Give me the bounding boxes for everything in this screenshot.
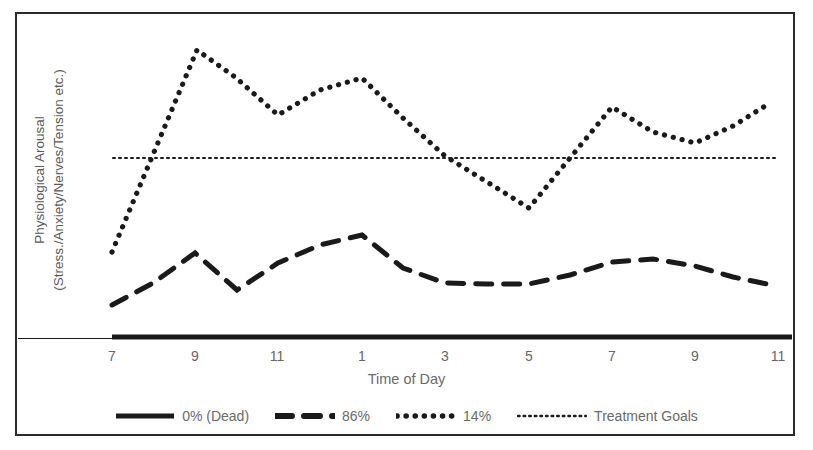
x-tick-label: 11 [270,346,285,366]
x-tick-label: 5 [525,346,533,366]
legend-item-label: 0% (Dead) [182,408,249,424]
x-tick-label: 9 [691,346,699,366]
x-tick-label: 7 [108,346,116,366]
fine-dotted-line-swatch [517,410,587,422]
x-axis-tick-labels: 79111357911 [0,346,813,370]
x-tick-label: 1 [358,346,366,366]
x-tick-label: 11 [771,346,786,366]
legend-item-label: 86% [342,408,370,424]
series-14-percent [112,50,770,252]
dotted-line-swatch [396,410,456,422]
legend-item[interactable]: Treatment Goals [517,408,698,424]
x-tick-label: 3 [441,346,449,366]
x-axis-title: Time of Day [0,371,813,387]
x-tick-label: 7 [608,346,616,366]
dashed-line-swatch [275,410,335,422]
legend-item-label: 14% [463,408,491,424]
legend-item[interactable]: 86% [275,408,370,424]
chart-legend: 0% (Dead)86%14%Treatment Goals [0,404,813,428]
legend-item[interactable]: 0% (Dead) [115,408,249,424]
solid-line-swatch [115,410,175,422]
series-86-percent [112,235,772,305]
legend-item-label: Treatment Goals [594,408,698,424]
chart-figure: Physiological Arousal (Stress./Anxiety/N… [0,0,813,450]
x-tick-label: 9 [191,346,199,366]
legend-item[interactable]: 14% [396,408,491,424]
